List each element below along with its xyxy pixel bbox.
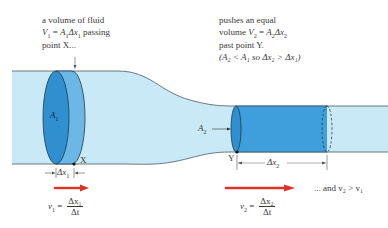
label-dx2: Δx2 [267,157,279,172]
label-point-y: Y [228,153,235,164]
label-a1: A1 [50,110,59,125]
point-x-dot [72,162,75,165]
volume-slab-2-face [231,106,241,152]
right-caption-line3: past point Y. [219,40,264,51]
left-caption-line3: point X... [42,40,76,51]
volume-slab-2-body [236,106,327,152]
right-caption-line4: (A₂ < A₁ so Δx₂ > Δx₁) [219,52,301,63]
point-y-dot [235,150,238,153]
right-caption-line1: pushes an equal [219,15,276,26]
equation-v2: v2 = Δx₂Δt [240,196,275,217]
equation-v1: v1 = Δx₁Δt [48,196,83,217]
label-point-x: X [80,155,87,166]
conclusion-text: ... and v₂ > v₁ [314,183,363,194]
left-caption-line1: a volume of fluid [42,15,104,26]
label-a2: A2 [198,123,207,138]
label-dx1: Δx1 [57,167,69,182]
